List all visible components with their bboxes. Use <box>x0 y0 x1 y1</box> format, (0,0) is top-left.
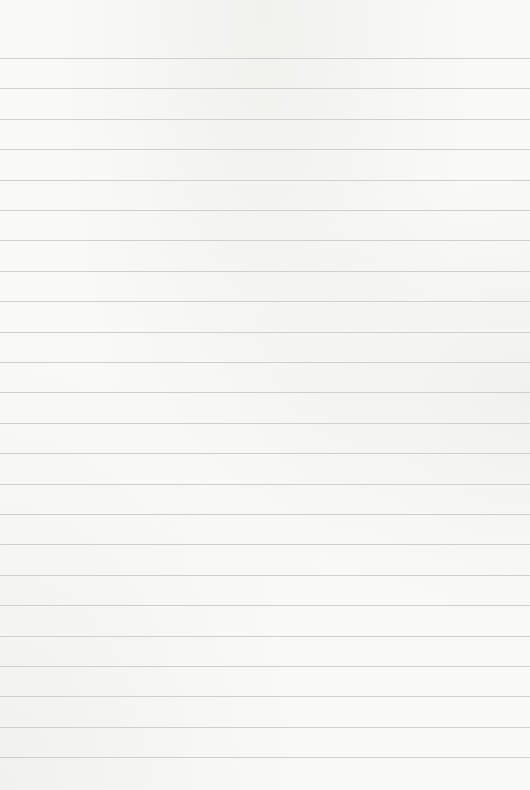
ruled-line <box>0 423 530 424</box>
ruled-line <box>0 88 530 89</box>
ruled-line <box>0 727 530 728</box>
ruled-line <box>0 484 530 485</box>
ruled-line <box>0 119 530 120</box>
ruled-line <box>0 392 530 393</box>
ruled-line <box>0 757 530 758</box>
ruled-line <box>0 180 530 181</box>
ruled-line <box>0 301 530 302</box>
ruled-line <box>0 332 530 333</box>
ruled-line <box>0 636 530 637</box>
ruled-line <box>0 58 530 59</box>
ruled-line <box>0 149 530 150</box>
ruled-line <box>0 240 530 241</box>
ruled-line <box>0 544 530 545</box>
ruled-line <box>0 453 530 454</box>
ruled-line <box>0 271 530 272</box>
ruled-line <box>0 210 530 211</box>
lined-paper <box>0 0 530 790</box>
ruled-line <box>0 514 530 515</box>
ruled-line <box>0 696 530 697</box>
ruled-line <box>0 666 530 667</box>
ruled-line <box>0 362 530 363</box>
ruled-line <box>0 575 530 576</box>
ruled-line <box>0 605 530 606</box>
